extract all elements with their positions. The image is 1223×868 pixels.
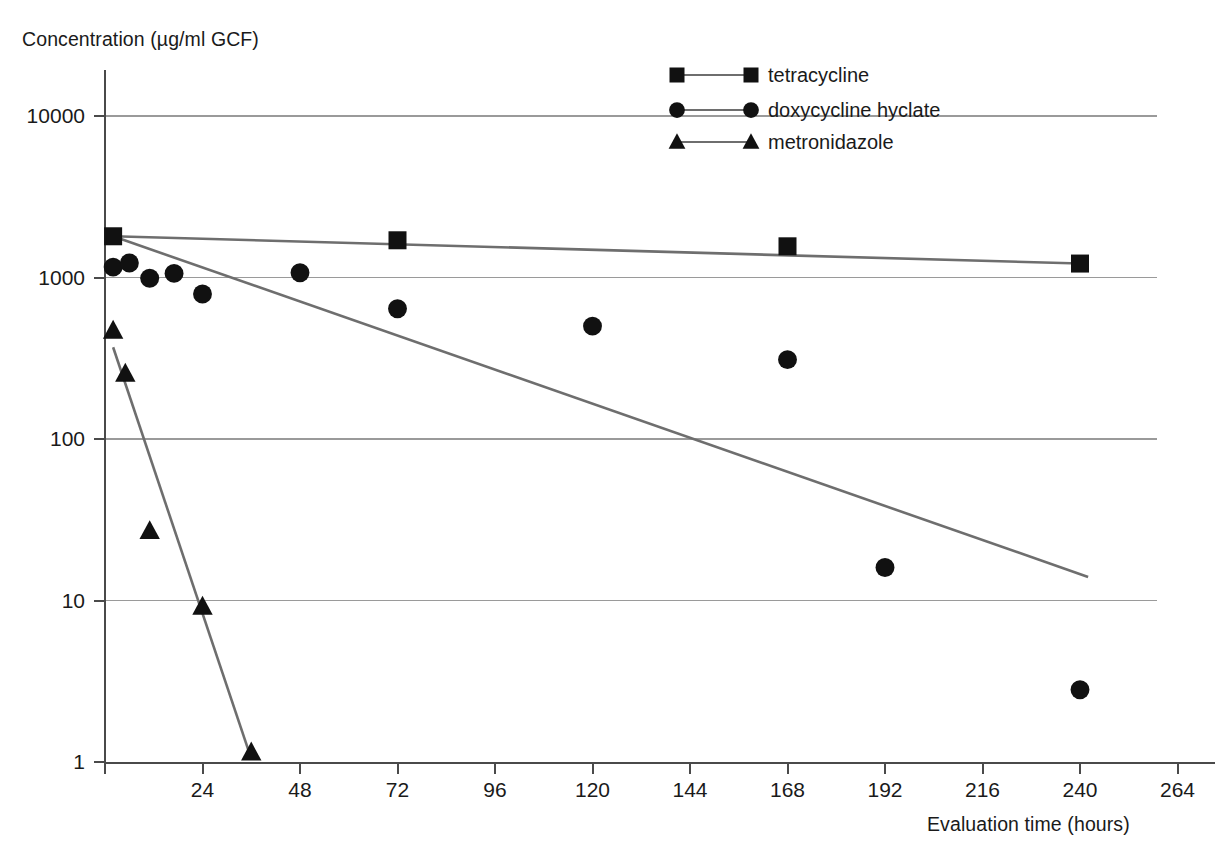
- data-point-doxycycline: [104, 258, 123, 277]
- trend-lines-group: [113, 236, 1088, 758]
- legend-marker-square: [670, 68, 685, 83]
- chart-page: Concentration (µg/ml GCF) Evaluation tim…: [0, 0, 1223, 868]
- legend-label-metronidazole: metronidazole: [768, 131, 894, 154]
- data-point-doxycycline: [165, 264, 184, 283]
- legend-marker-square: [744, 68, 759, 83]
- legend-label-doxycycline: doxycycline hyclate: [768, 99, 940, 122]
- data-point-doxycycline: [583, 317, 602, 336]
- x-tick-label: 24: [191, 778, 214, 802]
- data-point-tetracycline: [104, 227, 122, 245]
- y-tick-label: 100: [0, 427, 85, 451]
- data-point-doxycycline: [120, 254, 139, 273]
- x-tick-label: 120: [575, 778, 610, 802]
- data-markers-group: [103, 227, 1090, 760]
- y-tick-label: 10000: [0, 104, 85, 128]
- x-tick-label: 168: [770, 778, 805, 802]
- data-point-doxycycline: [291, 263, 310, 282]
- gridlines-group: [105, 116, 1157, 601]
- data-point-tetracycline: [779, 237, 797, 255]
- chart-plot-area: [0, 0, 1223, 868]
- trend-line-tetracycline: [113, 236, 1080, 263]
- x-tick-label: 264: [1160, 778, 1195, 802]
- legend-glyphs-group: [669, 68, 760, 149]
- x-tick-label: 48: [288, 778, 311, 802]
- x-tick-label: 216: [965, 778, 1000, 802]
- legend-marker-circle: [669, 102, 685, 118]
- x-tick-label: 72: [386, 778, 409, 802]
- x-tick-label: 144: [672, 778, 707, 802]
- x-tick-label: 240: [1062, 778, 1097, 802]
- data-point-doxycycline: [876, 558, 895, 577]
- data-point-doxycycline: [778, 350, 797, 369]
- data-point-doxycycline: [1071, 680, 1090, 699]
- x-tick-label: 96: [483, 778, 506, 802]
- data-point-doxycycline: [388, 299, 407, 318]
- trend-line-metronidazole: [113, 347, 251, 758]
- legend-label-tetracycline: tetracycline: [768, 64, 869, 87]
- legend-marker-circle: [743, 102, 759, 118]
- y-tick-label: 1000: [0, 266, 85, 290]
- data-point-doxycycline: [140, 269, 159, 288]
- data-point-doxycycline: [193, 285, 212, 304]
- data-point-metronidazole: [192, 596, 212, 615]
- y-tick-label: 1: [0, 750, 85, 774]
- data-point-tetracycline: [1071, 255, 1089, 273]
- x-tick-label: 192: [867, 778, 902, 802]
- tick-marks-group: [94, 116, 1178, 774]
- trend-line-doxycycline: [113, 236, 1088, 577]
- axes-group: [105, 70, 1215, 763]
- data-point-tetracycline: [389, 231, 407, 249]
- y-tick-label: 10: [0, 589, 85, 613]
- data-point-metronidazole: [139, 520, 159, 539]
- data-point-metronidazole: [241, 742, 261, 761]
